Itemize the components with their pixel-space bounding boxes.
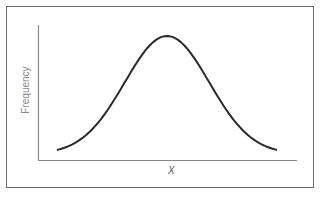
chart-plot (0, 0, 334, 198)
bell-curve (57, 36, 277, 150)
x-axis-label: X (168, 165, 175, 176)
y-axis-label: Frequency (20, 66, 31, 113)
